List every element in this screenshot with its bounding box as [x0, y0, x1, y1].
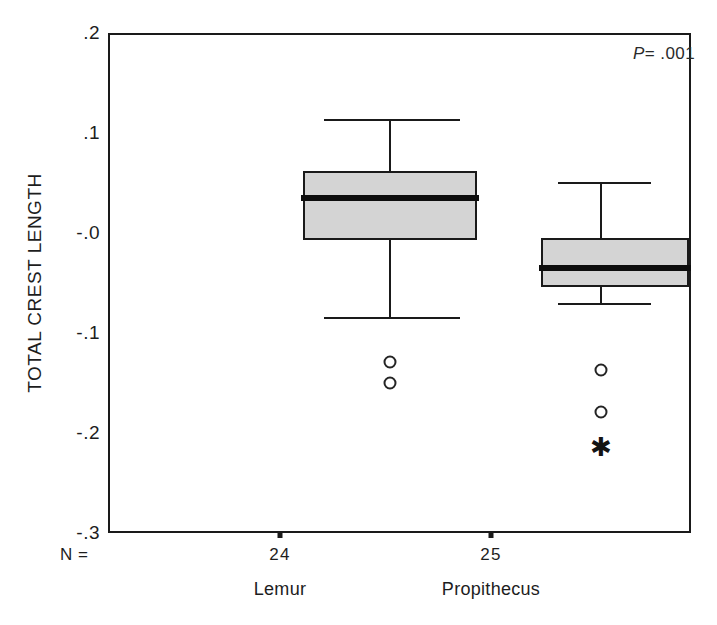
lower-whisker-line [600, 287, 602, 304]
p-value-annotation: P= .001 [633, 44, 695, 64]
y-axis-tick-label: -.0 [76, 222, 100, 244]
x-axis-tick-mark [489, 531, 494, 538]
n-value: 25 [480, 545, 501, 565]
y-axis-tick-label: -.3 [76, 522, 100, 544]
y-axis-title-label: TOTAL CREST LENGTH [24, 173, 46, 392]
plot-area: ✱ [110, 35, 689, 531]
x-axis-tick-mark [278, 531, 283, 538]
iqr-box [541, 238, 689, 287]
y-axis-tick-label: .2 [83, 22, 100, 44]
box-plot-figure: TOTAL CREST LENGTH .2.1-.0-.1-.2-.3 ✱ P=… [0, 0, 717, 625]
x-axis-group-label: Lemur [254, 579, 307, 600]
n-value: 24 [269, 545, 290, 565]
box-plot-propithecus: ✱ [110, 35, 717, 625]
p-value-text: = .001 [645, 44, 695, 63]
median-line [539, 265, 691, 271]
y-axis-tick-label: -.2 [76, 422, 100, 444]
p-symbol: P [633, 44, 645, 63]
extreme-outlier-asterisk: ✱ [590, 434, 612, 460]
x-axis-group-label: Propithecus [442, 579, 540, 600]
y-axis-tick-label: -.1 [76, 322, 100, 344]
y-axis-tick-label: .1 [83, 122, 100, 144]
y-axis-tick-label-group: .2.1-.0-.1-.2-.3 [48, 0, 100, 625]
upper-whisker-cap [558, 182, 651, 184]
lower-whisker-cap [558, 303, 651, 305]
upper-whisker-line [600, 183, 602, 238]
y-axis-title: TOTAL CREST LENGTH [18, 33, 52, 533]
outlier-circle [595, 364, 608, 377]
n-equals-label: N = [60, 545, 88, 565]
outlier-circle [595, 406, 608, 419]
